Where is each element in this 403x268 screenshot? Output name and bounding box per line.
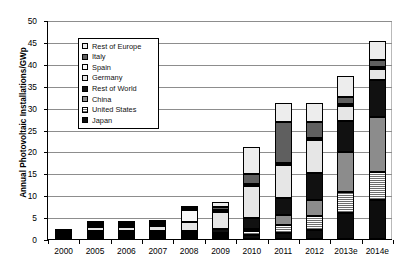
- bar-stack-2009[interactable]: [212, 202, 229, 239]
- y-tick-mark-45: [44, 43, 48, 44]
- legend-item-japan[interactable]: Japan: [82, 115, 155, 126]
- y-tick-mark-25: [44, 131, 48, 132]
- y-tick-mark-5: [44, 218, 48, 219]
- x-tick-label-2011: 2011: [274, 246, 292, 256]
- chart-legend: Rest of EuropeItalySpainGermanyRest of W…: [78, 38, 159, 129]
- bar-stack-2013e[interactable]: [337, 76, 354, 239]
- bar-segment-2006-japan[interactable]: [118, 237, 135, 239]
- x-tick-label-2005: 2005: [86, 246, 105, 256]
- bar-segment-2011-japan[interactable]: [275, 233, 292, 239]
- bar-segment-2012-japan[interactable]: [306, 230, 323, 239]
- bar-segment-2009-japan[interactable]: [212, 237, 229, 239]
- bar-stack-2011[interactable]: [275, 103, 292, 239]
- x-tick-mark-7: [268, 240, 269, 244]
- bar-stack-2014e[interactable]: [369, 41, 386, 239]
- y-tick-mark-10: [44, 196, 48, 197]
- bar-segment-2010-germany[interactable]: [243, 186, 260, 218]
- bar-segment-2013e-rest-of-europe[interactable]: [337, 76, 354, 97]
- x-tick-label-2012: 2012: [305, 246, 324, 256]
- bar-segment-2000-japan[interactable]: [55, 237, 72, 239]
- bar-segment-2011-united-states[interactable]: [275, 225, 292, 233]
- x-tick-mark-1: [79, 240, 80, 244]
- bar-segment-2014e-united-states[interactable]: [369, 172, 386, 200]
- bar-segment-2009-germany[interactable]: [212, 212, 229, 229]
- legend-item-germany[interactable]: Germany: [82, 73, 155, 84]
- y-tick-label-45: 45: [0, 38, 37, 48]
- bar-segment-2012-rest-of-europe[interactable]: [306, 103, 323, 123]
- bar-segment-2010-italy[interactable]: [243, 174, 260, 184]
- bar-stack-2010[interactable]: [243, 147, 260, 239]
- bar-segment-2013e-japan[interactable]: [337, 213, 354, 239]
- bar-stack-2000[interactable]: [55, 229, 72, 239]
- bar-segment-2013e-rest-of-world[interactable]: [337, 121, 354, 153]
- y-tick-label-10: 10: [0, 191, 37, 201]
- y-tick-mark-40: [44, 65, 48, 66]
- y-tick-mark-15: [44, 174, 48, 175]
- bar-segment-2014e-rest-of-europe[interactable]: [369, 41, 386, 60]
- bar-segment-2011-china[interactable]: [275, 215, 292, 225]
- photovoltaic-installations-chart: Annual Photovoltaic Installations/GWp 05…: [0, 0, 403, 268]
- bar-segment-2011-rest-of-world[interactable]: [275, 198, 292, 216]
- legend-swatch-icon-3: [82, 75, 88, 81]
- bar-segment-2010-japan[interactable]: [243, 235, 260, 239]
- bar-segment-2011-germany[interactable]: [275, 165, 292, 198]
- x-tick-label-2014e: 2014e: [366, 246, 389, 256]
- bar-segment-2011-italy[interactable]: [275, 122, 292, 163]
- y-tick-mark-30: [44, 109, 48, 110]
- bar-segment-2014e-japan[interactable]: [369, 200, 386, 239]
- bar-stack-2012[interactable]: [306, 103, 323, 239]
- y-tick-mark-20: [44, 152, 48, 153]
- legend-swatch-icon-1: [82, 54, 88, 60]
- legend-swatch-icon-0: [82, 43, 88, 49]
- bar-stack-2006[interactable]: [118, 221, 135, 239]
- bar-segment-2014e-italy[interactable]: [369, 60, 386, 67]
- legend-item-rest-of-europe[interactable]: Rest of Europe: [82, 41, 155, 52]
- legend-label: Rest of Europe: [92, 43, 141, 50]
- bar-stack-2008[interactable]: [181, 206, 198, 239]
- bar-segment-2013e-united-states[interactable]: [337, 192, 354, 213]
- legend-item-spain[interactable]: Spain: [82, 62, 155, 73]
- bar-segment-2012-germany[interactable]: [306, 140, 323, 173]
- legend-label: Italy: [92, 53, 106, 60]
- bar-segment-2012-china[interactable]: [306, 200, 323, 215]
- bar-segment-2007-japan[interactable]: [149, 237, 166, 239]
- legend-swatch-icon-5: [82, 96, 88, 102]
- legend-label: China: [92, 96, 111, 103]
- bar-segment-2014e-germany[interactable]: [369, 69, 386, 80]
- bar-segment-2010-rest-of-europe[interactable]: [243, 147, 260, 174]
- x-tick-mark-6: [236, 240, 237, 244]
- legend-item-china[interactable]: China: [82, 94, 155, 105]
- bar-segment-2008-spain[interactable]: [181, 210, 198, 222]
- x-tick-mark-2: [111, 240, 112, 244]
- bar-segment-2012-rest-of-world[interactable]: [306, 173, 323, 200]
- legend-swatch-icon-7: [82, 117, 88, 123]
- y-tick-label-5: 5: [0, 213, 37, 223]
- y-tick-label-40: 40: [0, 60, 37, 70]
- x-tick-label-2013e: 2013e: [334, 246, 357, 256]
- bar-segment-2013e-italy[interactable]: [337, 97, 354, 104]
- x-tick-mark-end: [393, 240, 394, 244]
- bar-segment-2014e-rest-of-world[interactable]: [369, 80, 386, 117]
- y-tick-mark-35: [44, 87, 48, 88]
- bar-segment-2012-italy[interactable]: [306, 122, 323, 138]
- bar-segment-2005-japan[interactable]: [87, 237, 104, 239]
- bar-segment-2013e-germany[interactable]: [337, 106, 354, 120]
- x-tick-mark-3: [142, 240, 143, 244]
- bar-segment-2012-united-states[interactable]: [306, 216, 323, 230]
- y-tick-label-15: 15: [0, 169, 37, 179]
- bar-segment-2008-japan[interactable]: [181, 237, 198, 239]
- x-tick-label-2000: 2000: [54, 246, 73, 256]
- legend-label: Japan: [92, 117, 112, 124]
- legend-item-rest-of-world[interactable]: Rest of World: [82, 83, 155, 94]
- bar-stack-2005[interactable]: [87, 221, 104, 239]
- bar-segment-2010-rest-of-world[interactable]: [243, 218, 260, 229]
- y-tick-label-30: 30: [0, 104, 37, 114]
- bar-stack-2007[interactable]: [149, 220, 166, 239]
- bar-segment-2011-rest-of-europe[interactable]: [275, 103, 292, 122]
- gridline-50: [48, 21, 392, 22]
- bar-segment-2014e-china[interactable]: [369, 117, 386, 172]
- bar-segment-2013e-china[interactable]: [337, 152, 354, 191]
- legend-item-italy[interactable]: Italy: [82, 52, 155, 63]
- bar-segment-2008-germany[interactable]: [181, 222, 198, 231]
- legend-item-united-states[interactable]: United States: [82, 105, 155, 116]
